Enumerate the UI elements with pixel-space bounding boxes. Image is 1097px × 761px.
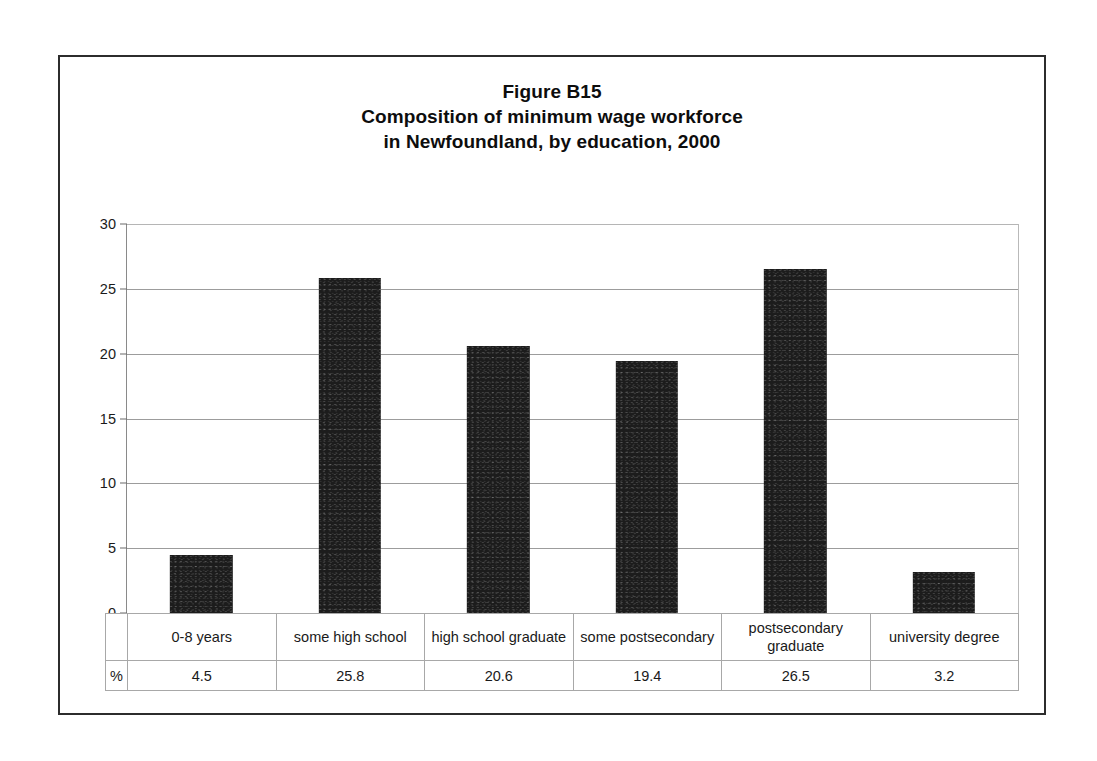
bar <box>467 346 529 613</box>
bar <box>319 278 381 613</box>
value-cell: 4.5 <box>128 661 277 691</box>
table-row-values: %4.525.820.619.426.53.2 <box>106 661 1019 691</box>
value-cell: 25.8 <box>276 661 425 691</box>
bar <box>913 572 975 613</box>
bar-slot <box>424 224 572 613</box>
bar <box>764 269 826 613</box>
y-tick-label-30: 30 <box>100 216 127 232</box>
bar-slot <box>275 224 423 613</box>
page-title: Figure B15 Composition of minimum wage w… <box>60 79 1044 154</box>
title-line-1: Figure B15 <box>60 79 1044 104</box>
bar-slot <box>127 224 275 613</box>
title-line-3: in Newfoundland, by education, 2000 <box>60 129 1044 154</box>
category-cell: some postsecondary <box>573 614 722 661</box>
figure-frame: Figure B15 Composition of minimum wage w… <box>58 55 1046 715</box>
unit-label-percent: % <box>106 661 128 691</box>
data-table: 0-8 yearssome high schoolhigh school gra… <box>105 613 1019 691</box>
value-cell: 26.5 <box>722 661 871 691</box>
value-cell: 3.2 <box>870 661 1019 691</box>
category-cell: university degree <box>870 614 1019 661</box>
y-tick-label-20: 20 <box>100 346 127 362</box>
table-stub-blank <box>106 614 128 661</box>
bar-slot <box>870 224 1018 613</box>
value-cell: 19.4 <box>573 661 722 691</box>
bar <box>170 555 232 613</box>
bar-slot <box>721 224 869 613</box>
bar <box>616 361 678 613</box>
y-tick-label-10: 10 <box>100 475 127 491</box>
plot-area: 051015202530 <box>126 224 1019 613</box>
bar-series <box>127 224 1018 613</box>
value-cell: 20.6 <box>425 661 574 691</box>
y-tick-label-15: 15 <box>100 411 127 427</box>
title-line-2: Composition of minimum wage workforce <box>60 104 1044 129</box>
category-cell: high school graduate <box>425 614 574 661</box>
bar-slot <box>573 224 721 613</box>
y-tick-label-25: 25 <box>100 281 127 297</box>
category-cell: postsecondary graduate <box>722 614 871 661</box>
y-tick-label-5: 5 <box>108 540 127 556</box>
category-cell: 0-8 years <box>128 614 277 661</box>
category-cell: some high school <box>276 614 425 661</box>
table-row-categories: 0-8 yearssome high schoolhigh school gra… <box>106 614 1019 661</box>
